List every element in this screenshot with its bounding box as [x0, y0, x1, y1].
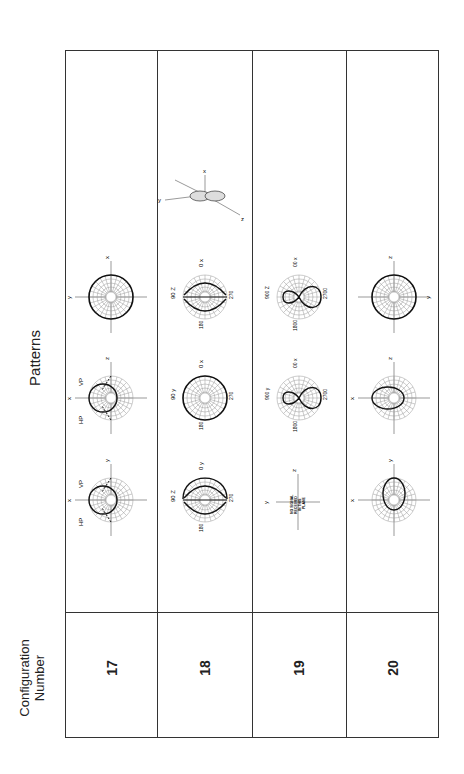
svg-text:00 x: 00 x: [292, 358, 298, 368]
svg-text:x: x: [349, 397, 355, 400]
svg-text:180: 180: [198, 421, 204, 430]
svg-text:2700: 2700: [322, 389, 328, 400]
svg-text:VP: VP: [78, 480, 84, 488]
svg-text:90 Z: 90 Z: [170, 287, 176, 299]
svg-text:z: z: [291, 469, 297, 472]
pattern-19-no-signal: y z NO SIGNAL RECEIVED IN THIS PLANE: [263, 469, 320, 530]
svg-text:z: z: [387, 256, 393, 259]
svg-text:y: y: [104, 459, 110, 462]
svg-text:2700: 2700: [322, 288, 328, 299]
svg-text:HP: HP: [78, 416, 84, 424]
svg-text:z: z: [387, 357, 393, 360]
svg-text:x: x: [104, 256, 110, 259]
pattern-17-1: x y: [66, 256, 147, 333]
svg-text:1800: 1800: [292, 320, 298, 331]
svg-text:x: x: [203, 168, 206, 174]
pattern-19-1: 00 x 900 y 1800 2700: [264, 358, 328, 432]
svg-text:y: y: [263, 501, 269, 504]
pattern-20-2: x z: [349, 357, 430, 434]
svg-text:0 x: 0 x: [198, 259, 204, 267]
svg-text:HP: HP: [78, 518, 84, 526]
pattern-17-2: x z VP HP: [66, 357, 147, 434]
svg-text:0 x: 0 x: [198, 360, 204, 368]
pattern-20-1: x y: [349, 459, 430, 536]
svg-text:180: 180: [198, 523, 204, 532]
svg-text:270: 270: [228, 391, 234, 400]
svg-text:0 y: 0 y: [198, 462, 204, 470]
svg-text:z: z: [241, 216, 244, 222]
svg-text:VP: VP: [78, 378, 84, 386]
svg-text:z: z: [104, 357, 110, 360]
svg-text:1800: 1800: [292, 421, 298, 432]
svg-text:y: y: [66, 296, 72, 299]
radiation-pattern-drawings: x y x z VP HP x y VP HP x y z 0 y: [0, 0, 464, 774]
pattern-18-2: 0 x 90 y 180 270: [170, 360, 234, 430]
svg-text:PLANE: PLANE: [302, 496, 306, 509]
svg-text:00 x: 00 x: [292, 257, 298, 267]
pattern-18-3: 0 x 90 Z 180 270: [170, 259, 234, 329]
svg-text:90 y: 90 y: [170, 389, 176, 400]
svg-text:270: 270: [228, 493, 234, 502]
pattern-19-2: 00 x 900 Z 1800 2700: [264, 257, 328, 331]
pattern-17-3: x y VP HP: [66, 459, 147, 536]
svg-text:y: y: [387, 459, 393, 462]
svg-text:x: x: [349, 499, 355, 502]
svg-text:900 Z: 900 Z: [264, 286, 270, 299]
svg-text:y: y: [425, 296, 431, 299]
pattern-18-3d-view: x y z: [158, 168, 244, 222]
svg-text:y: y: [158, 197, 161, 203]
svg-text:180: 180: [198, 320, 204, 329]
pattern-18-1: 0 y 90 Z 180 270: [170, 462, 234, 532]
svg-text:x: x: [66, 499, 72, 502]
svg-text:x: x: [66, 397, 72, 400]
svg-text:900 y: 900 y: [264, 387, 270, 400]
svg-text:90 Z: 90 Z: [170, 490, 176, 502]
svg-text:270: 270: [228, 290, 234, 299]
pattern-20-3: z y: [358, 256, 431, 333]
